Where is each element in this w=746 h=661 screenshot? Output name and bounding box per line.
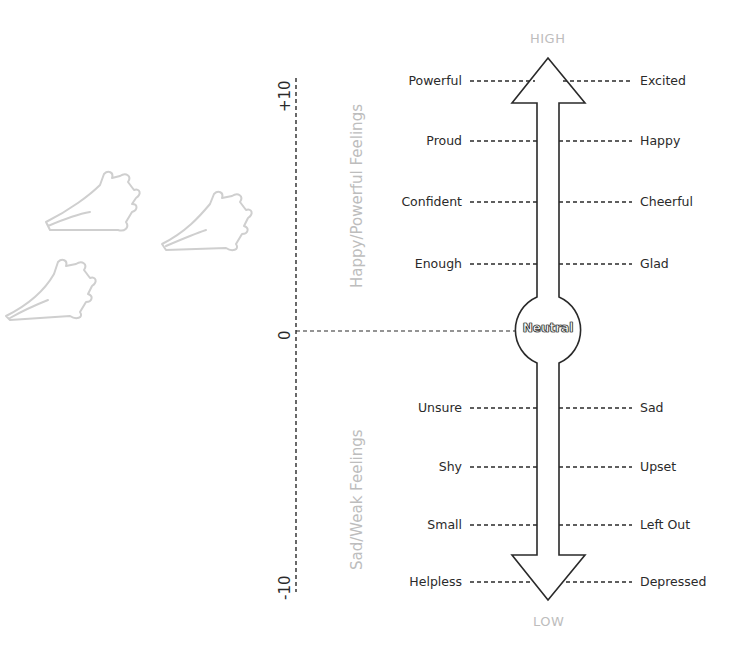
feeling-label-left: Small xyxy=(372,518,462,532)
feeling-label-right: Depressed xyxy=(640,575,706,589)
feeling-label-right: Cheerful xyxy=(640,195,693,209)
feelings-scale-graphic xyxy=(0,0,746,661)
feeling-label-left: Powerful xyxy=(372,74,462,88)
feeling-label-right: Upset xyxy=(640,460,676,474)
feeling-label-left: Shy xyxy=(372,460,462,474)
feeling-label-left: Confident xyxy=(372,195,462,209)
axis-max-label: +10 xyxy=(276,80,294,112)
feeling-label-right: Glad xyxy=(640,257,669,271)
lower-region-label: Sad/Weak Feelings xyxy=(348,429,366,570)
axis-min-label: -10 xyxy=(276,576,294,601)
feeling-label-left: Unsure xyxy=(372,401,462,415)
feeling-label-left: Helpless xyxy=(372,575,462,589)
feeling-label-left: Enough xyxy=(372,257,462,271)
feeling-label-right: Happy xyxy=(640,134,680,148)
axis-zero-label: 0 xyxy=(276,330,294,340)
feeling-label-right: Excited xyxy=(640,74,686,88)
low-label: LOW xyxy=(533,614,564,629)
feeling-label-right: Left Out xyxy=(640,518,690,532)
neutral-label: Neutral xyxy=(516,321,580,335)
paw-print-icon xyxy=(6,172,252,320)
feeling-label-left: Proud xyxy=(372,134,462,148)
high-label: HIGH xyxy=(530,31,565,46)
feeling-label-right: Sad xyxy=(640,401,664,415)
upper-region-label: Happy/Powerful Feelings xyxy=(348,104,366,288)
